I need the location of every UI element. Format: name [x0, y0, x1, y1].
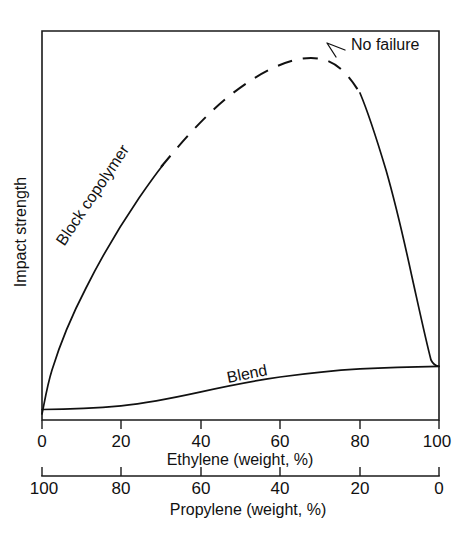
propylene-tick-label-5: 0 [434, 479, 443, 498]
no-failure-annotation: No failure [351, 36, 420, 53]
ethylene-tick-label-0: 0 [37, 432, 46, 451]
chart-figure: 0 20 40 60 80 100 Ethylene (weight, %) 1… [0, 0, 469, 533]
ethylene-axis-title: Ethylene (weight, %) [167, 451, 314, 468]
block-copolymer-curve-dashed-peak [161, 58, 362, 167]
ethylene-tick-labels: 0 20 40 60 80 100 [37, 432, 451, 451]
block-copolymer-curve-solid-right [360, 93, 439, 366]
propylene-axis [42, 467, 439, 476]
block-copolymer-series-label: Block copolymer [53, 141, 133, 248]
impact-strength-axis-title: Impact strength [12, 177, 29, 287]
propylene-tick-label-3: 40 [271, 479, 290, 498]
propylene-tick-label-4: 20 [351, 479, 370, 498]
no-failure-leader-line [327, 43, 345, 57]
ethylene-tick-label-5: 100 [423, 432, 451, 451]
block-copolymer-curve-solid-left [42, 165, 163, 414]
ethylene-tick-label-2: 40 [192, 432, 211, 451]
propylene-tick-label-2: 60 [192, 479, 211, 498]
propylene-axis-title: Propylene (weight, %) [170, 501, 327, 518]
ethylene-axis-ticks [42, 420, 439, 429]
plot-frame [42, 31, 439, 420]
ethylene-tick-label-3: 60 [271, 432, 290, 451]
blend-series-label: Blend [225, 361, 268, 385]
propylene-tick-label-0: 100 [30, 479, 58, 498]
propylene-tick-label-1: 80 [112, 479, 131, 498]
ethylene-tick-label-4: 80 [351, 432, 370, 451]
ethylene-tick-label-1: 20 [112, 432, 131, 451]
propylene-tick-labels: 100 80 60 40 20 0 [30, 479, 444, 498]
impact-strength-chart: 0 20 40 60 80 100 Ethylene (weight, %) 1… [0, 0, 469, 533]
